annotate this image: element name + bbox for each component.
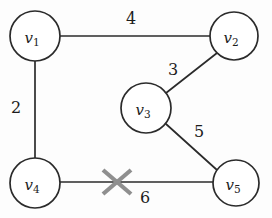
graph-diagram: v1 v2 v3 v4 [0, 0, 272, 218]
edge-weight-v3-v2: 3 [168, 60, 178, 79]
edge-weight-v3-v5: 5 [194, 122, 204, 141]
node-v5[interactable]: v5 [213, 160, 259, 206]
node-v3[interactable]: v3 [121, 83, 171, 133]
edge-weight-v4-v5: 6 [140, 188, 150, 207]
graph-canvas: v1 v2 v3 v4 [0, 0, 272, 218]
node-v2[interactable]: v2 [210, 12, 258, 60]
node-v1[interactable]: v1 [10, 11, 60, 61]
edge-v3-v5[interactable] [166, 124, 217, 170]
edge-weight-v1-v4: 2 [11, 98, 21, 117]
edge-weight-v1-v2: 4 [126, 9, 136, 28]
nodes-layer: v1 v2 v3 v4 [10, 11, 259, 208]
node-v4[interactable]: v4 [10, 158, 60, 208]
